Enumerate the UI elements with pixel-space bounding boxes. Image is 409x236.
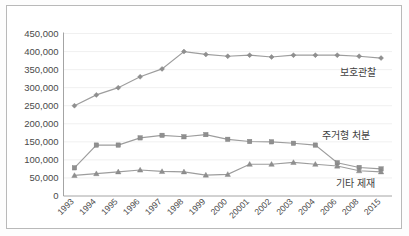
x-tick-label: 1996	[121, 196, 142, 217]
data-point	[72, 103, 77, 108]
series-label: 보호관찰	[340, 67, 376, 78]
x-tick-label: 20001	[227, 196, 251, 220]
data-point	[357, 54, 362, 59]
data-point	[313, 53, 318, 58]
data-point	[94, 143, 98, 147]
data-point	[226, 137, 230, 141]
data-point	[138, 136, 142, 140]
data-point	[160, 133, 164, 137]
data-point	[313, 143, 317, 147]
y-axis-tick-labels: 450,000400,000350,000300,000250,000200,0…	[24, 28, 58, 202]
series-label: 기타 제재	[336, 178, 375, 189]
data-point	[94, 92, 99, 97]
x-tick-label: 2008	[340, 196, 361, 217]
x-tick-label: 1997	[143, 196, 164, 217]
y-tick-label: 250,000	[24, 100, 58, 111]
data-point	[247, 139, 251, 143]
chart-figure: 450,000400,000350,000300,000250,000200,0…	[0, 0, 409, 236]
data-point	[379, 56, 384, 61]
series-label: 주거형 처분	[322, 130, 370, 141]
y-tick-label: 200,000	[24, 118, 58, 129]
series-line-1	[74, 52, 381, 106]
x-tick-label: 2002	[252, 196, 273, 217]
y-tick-label: 400,000	[24, 46, 58, 57]
x-tick-label: 1994	[77, 196, 98, 217]
data-point	[138, 74, 143, 79]
y-tick-label: 0	[53, 190, 58, 201]
x-tick-label: 1998	[165, 196, 186, 217]
data-point	[335, 53, 340, 58]
x-tick-label: 1995	[99, 196, 120, 217]
y-tick-label: 100,000	[24, 154, 58, 165]
data-point	[203, 52, 208, 57]
y-tick-label: 50,000	[29, 172, 58, 183]
data-point	[269, 54, 274, 59]
y-tick-label: 300,000	[24, 82, 58, 93]
plot-area: 450,000400,000350,000300,000250,000200,0…	[0, 0, 409, 236]
data-point	[116, 85, 121, 90]
x-tick-label: 1999	[187, 196, 208, 217]
data-point	[116, 143, 120, 147]
x-tick-label: 2000	[209, 196, 230, 217]
data-point	[182, 135, 186, 139]
x-tick-label: 2006	[318, 196, 339, 217]
data-point	[204, 132, 208, 136]
y-tick-label: 150,000	[24, 136, 58, 147]
line-chart: 450,000400,000350,000300,000250,000200,0…	[0, 0, 409, 236]
x-tick-label: 2004	[296, 196, 317, 217]
data-point	[247, 53, 252, 58]
series-markers	[72, 49, 384, 177]
data-point	[72, 166, 76, 170]
x-tick-label: 2015	[362, 196, 383, 217]
data-point	[269, 140, 273, 144]
data-point	[291, 141, 295, 145]
y-tick-label: 350,000	[24, 64, 58, 75]
x-axis-tick-labels: 1993199419951996199719981999200020001200…	[55, 196, 382, 220]
data-point	[225, 54, 230, 59]
data-point	[291, 53, 296, 58]
y-tick-label: 450,000	[24, 28, 58, 39]
x-tick-label: 2003	[274, 196, 295, 217]
series-lines	[74, 52, 381, 176]
